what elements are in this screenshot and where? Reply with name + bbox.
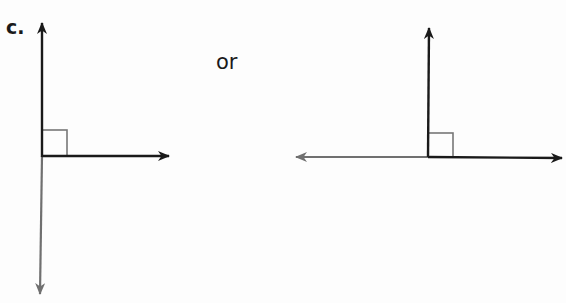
ray-up bbox=[428, 28, 429, 157]
diagram-canvas: c. or bbox=[0, 0, 566, 303]
right-angle-marker bbox=[42, 130, 67, 156]
ray-right bbox=[428, 157, 562, 158]
right-right-angle-figure bbox=[296, 28, 562, 158]
right-angle-marker bbox=[428, 133, 453, 157]
angle-figures bbox=[0, 0, 566, 303]
ray-down-gray bbox=[40, 156, 42, 294]
left-right-angle-figure bbox=[40, 23, 169, 294]
